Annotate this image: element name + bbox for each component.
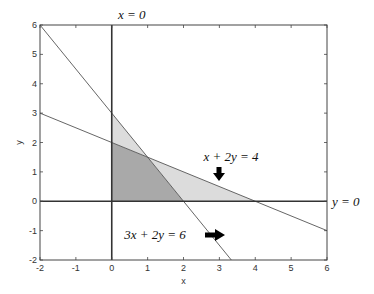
y-tick-label: 2 <box>32 138 37 148</box>
y-axis-title: y <box>14 140 24 145</box>
label-y-eq-0: y = 0 <box>330 194 360 209</box>
chart-canvas: -2-10123456-2-10123456xyx = 0y = 0x + 2y… <box>0 0 374 294</box>
y-tick-label: 1 <box>32 167 37 177</box>
y-tick-label: 3 <box>32 108 37 118</box>
x-tick-label: 1 <box>145 263 150 273</box>
label-x-eq-0: x = 0 <box>117 7 146 22</box>
y-tick-label: -2 <box>29 255 37 265</box>
x-axis-title: x <box>181 276 186 286</box>
y-tick-label: -1 <box>29 226 37 236</box>
label-constraint-2: 3x + 2y = 6 <box>123 227 186 242</box>
x-tick-label: -1 <box>72 263 80 273</box>
arrow-down-icon <box>213 167 225 181</box>
x-tick-label: -2 <box>36 263 44 273</box>
y-tick-label: 6 <box>32 20 37 30</box>
line-x-2y-4 <box>40 113 327 231</box>
y-tick-label: 0 <box>32 196 37 206</box>
x-tick-label: 6 <box>324 263 329 273</box>
y-tick-label: 4 <box>32 79 37 89</box>
x-tick-label: 5 <box>289 263 294 273</box>
y-tick-label: 5 <box>32 49 37 59</box>
x-tick-label: 3 <box>217 263 222 273</box>
x-tick-label: 0 <box>109 263 114 273</box>
plot-frame <box>40 25 327 260</box>
x-tick-label: 4 <box>253 263 258 273</box>
x-tick-label: 2 <box>181 263 186 273</box>
label-constraint-1: x + 2y = 4 <box>202 149 259 164</box>
